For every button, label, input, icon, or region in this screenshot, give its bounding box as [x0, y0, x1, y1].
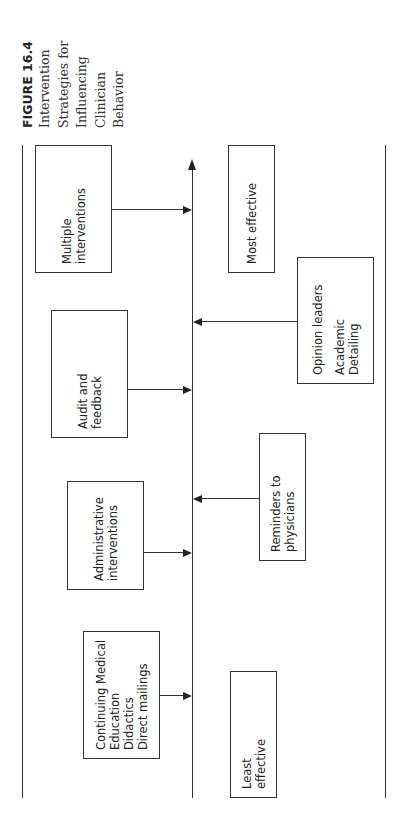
caption-line: Intervention — [36, 8, 55, 128]
box-text: Administrative — [92, 490, 106, 581]
arrow-down-icon — [183, 549, 192, 557]
box-text: interventions — [106, 490, 120, 581]
box-text: Reminders to — [269, 442, 283, 552]
connector-administrative — [144, 552, 184, 553]
connector-opinion-leaders — [201, 321, 297, 322]
box-text: Education — [108, 640, 122, 750]
bottom-rule — [385, 145, 386, 798]
connector-reminders — [201, 498, 259, 499]
box-reminders-physicians: Reminders to physicians — [259, 433, 306, 561]
figure-label: FIGURE 16.4 — [20, 8, 36, 128]
box-multiple-interventions: Multiple interventions — [35, 145, 112, 273]
box-text: Direct mailings — [136, 640, 150, 750]
box-text: physicians — [283, 442, 297, 552]
caption-line: Influencing — [73, 8, 92, 128]
box-text: Least — [240, 680, 254, 789]
arrow-down-icon — [183, 386, 192, 394]
connector-multiple — [112, 209, 184, 210]
box-text: interventions — [74, 154, 88, 264]
box-least-effective: Least effective — [230, 671, 277, 798]
box-text: feedback — [90, 319, 104, 429]
connector-audit — [128, 389, 184, 390]
box-opinion-leaders: Opinion leaders Academic Detailing — [297, 257, 374, 384]
box-text: effective — [254, 680, 268, 789]
arrow-down-icon — [183, 692, 192, 700]
box-text: Audit and — [76, 319, 90, 429]
caption-line: Strategies for — [55, 8, 74, 128]
box-audit-feedback: Audit and feedback — [51, 310, 128, 438]
connector-cme — [160, 695, 184, 696]
box-administrative-interventions: Administrative interventions — [67, 481, 144, 590]
arrow-down-icon — [183, 206, 192, 214]
figure-title-block: FIGURE 16.4 Intervention Strategies for … — [20, 8, 129, 128]
box-text: Academic — [333, 266, 347, 375]
box-continuing-medical-education: Continuing Medical Education Didactics D… — [83, 631, 160, 759]
spacer — [325, 266, 333, 375]
box-text: Didactics — [122, 640, 136, 750]
figure-canvas: FIGURE 16.4 Intervention Strategies for … — [0, 0, 406, 832]
effectiveness-axis — [192, 166, 193, 798]
box-text: Opinion leaders — [311, 266, 325, 375]
box-text: Multiple — [60, 154, 74, 264]
arrow-up-icon — [193, 318, 202, 326]
caption-line: Behavior — [110, 8, 129, 128]
box-text: Most effective — [245, 154, 259, 264]
top-rule — [22, 145, 23, 798]
box-text: Continuing Medical — [94, 640, 108, 750]
box-text: Detailing — [347, 266, 361, 375]
box-most-effective: Most effective — [228, 145, 275, 273]
caption-line: Clinician — [92, 8, 111, 128]
axis-arrow-icon — [188, 159, 196, 170]
arrow-up-icon — [193, 495, 202, 503]
